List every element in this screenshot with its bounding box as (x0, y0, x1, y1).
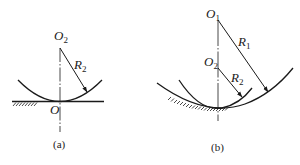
arc-r1-b (157, 68, 293, 108)
diagram-canvas: O2 R2 O (a) (0, 0, 300, 165)
radius-label-r1-b: R1 (237, 34, 250, 51)
center-label-o2-b: O2 (204, 54, 218, 71)
contact-label-o-a: O (50, 102, 60, 117)
figure-b: O1 O2 R1 R2 (b) (157, 6, 293, 154)
caption-b: (b) (211, 141, 224, 154)
center-label-o2-a: O2 (54, 28, 68, 45)
radius-label-r2-b: R2 (230, 70, 243, 87)
center-label-o1-b: O1 (206, 6, 220, 23)
caption-a: (a) (53, 138, 66, 151)
hatching-a (13, 103, 37, 107)
figure-a: O2 R2 O (a) (12, 28, 104, 151)
radius-label-r2-a: R2 (73, 57, 86, 74)
